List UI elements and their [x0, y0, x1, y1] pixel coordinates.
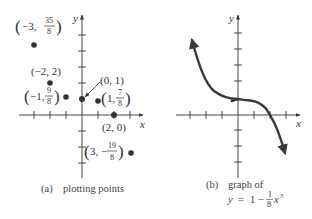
point-neg3: [31, 42, 37, 48]
cubic-curve: [232, 99, 285, 153]
svg-text:=: =: [238, 194, 244, 205]
caption-a-tag: (a): [41, 183, 53, 195]
svg-text:19: 19: [108, 141, 116, 150]
svg-text:1,: 1,: [107, 92, 116, 104]
label-point-1: ( 1, 7 8 ): [101, 88, 131, 108]
point-1: [95, 98, 101, 104]
svg-text:8: 8: [118, 99, 122, 108]
panel-b-graph: y x (b) graph of y = 1 − 1 8 x 3: [176, 12, 301, 209]
svg-text:−1,: −1,: [30, 90, 45, 102]
svg-text:3: 3: [279, 193, 283, 199]
svg-text:8: 8: [110, 153, 114, 162]
y-axis-label: y: [228, 12, 234, 24]
pointer-arrow: [85, 82, 100, 97]
svg-text:8: 8: [47, 27, 51, 36]
point-neg2: [47, 80, 53, 86]
svg-text:9: 9: [47, 86, 51, 95]
svg-text:3, −: 3, −: [90, 145, 107, 157]
svg-text:x: x: [273, 194, 279, 205]
cubic-curve-upper: [192, 40, 238, 99]
label-point-neg3: ( −3, 35 8 ): [15, 16, 62, 36]
svg-text:): ): [54, 87, 60, 106]
svg-text:): ): [125, 89, 131, 108]
svg-text:(: (: [15, 17, 21, 36]
label-point-2: (2, 0): [102, 121, 126, 134]
svg-text:1: 1: [268, 190, 272, 199]
svg-text:1 −: 1 −: [250, 194, 264, 205]
label-point-0: (0, 1): [100, 74, 124, 87]
caption-b-tag: (b): [206, 179, 219, 191]
svg-text:7: 7: [118, 88, 122, 97]
panel-a-plotting-points: y x ( −3, 35 8 ) (−2, 2) ( −1, 9: [15, 12, 145, 195]
svg-text:8: 8: [47, 97, 51, 106]
point-3: [128, 150, 134, 156]
cubic-curve-left: [202, 101, 232, 139]
label-point-neg2: (−2, 2): [31, 65, 61, 78]
point-neg1: [63, 94, 69, 100]
figure-canvas: y x ( −3, 35 8 ) (−2, 2) ( −1, 9: [0, 0, 312, 219]
equation: y = 1 − 1 8 x 3: [227, 190, 283, 209]
point-0: [79, 96, 85, 102]
x-axis-label: x: [139, 118, 145, 130]
svg-text:−3,: −3,: [22, 20, 37, 32]
x-axis-label: x: [295, 117, 301, 129]
caption-a-text: plotting points: [63, 183, 124, 194]
caption-b-line1: graph of: [228, 179, 264, 190]
svg-text:35: 35: [45, 16, 53, 25]
y-axis-label: y: [72, 12, 78, 24]
svg-text:8: 8: [267, 200, 271, 209]
svg-text:y: y: [227, 194, 233, 205]
label-point-neg1: ( −1, 9 8 ): [24, 86, 60, 106]
label-point-3: ( 3, − 19 8 ): [84, 141, 124, 162]
point-2: [111, 112, 117, 118]
svg-text:): ): [118, 142, 124, 161]
svg-text:): ): [56, 17, 62, 36]
